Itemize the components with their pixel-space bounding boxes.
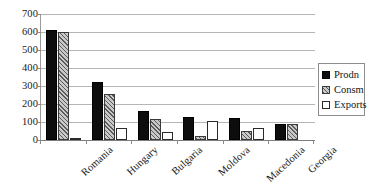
bar-group <box>87 14 133 140</box>
bar-prodn-moldova <box>183 117 194 140</box>
x-axis-tick-label-macedonia: Macedonia <box>264 144 307 184</box>
legend-label: Prodn <box>334 69 359 80</box>
bar-chart: 7006005004003002001000 RomaniaHungaryBul… <box>0 0 367 188</box>
y-axis-tick-label: 300 <box>4 81 38 91</box>
bar-consm-georgia <box>287 124 298 140</box>
bar-group <box>269 14 315 140</box>
bar-consm-romania <box>58 32 69 140</box>
bar-prodn-bulgaria <box>138 111 149 140</box>
bar-prodn-georgia <box>275 124 286 140</box>
legend-label: Exports <box>334 99 367 110</box>
x-axis-tick-label-moldova: Moldova <box>216 144 252 178</box>
plot-area <box>40 14 315 140</box>
legend: ProdnConsmExports <box>318 63 365 116</box>
bar-group <box>224 14 270 140</box>
legend-item-consm: Consm <box>322 82 361 97</box>
legend-item-prodn: Prodn <box>322 67 361 82</box>
y-axis-tick-label: 400 <box>4 63 38 73</box>
x-axis-tick-label-romania: Romania <box>79 144 115 178</box>
y-axis-tick-label: 500 <box>4 45 38 55</box>
bar-group <box>178 14 224 140</box>
y-axis-tick-label: 100 <box>4 117 38 127</box>
x-axis: RomaniaHungaryBulgariaMoldovaMacedoniaGe… <box>40 144 314 188</box>
bar-prodn-macedonia <box>229 118 240 140</box>
legend-swatch-prodn-icon <box>322 71 330 79</box>
legend-label: Consm <box>334 84 364 95</box>
legend-item-exports: Exports <box>322 97 361 112</box>
bar-prodn-hungary <box>92 82 103 140</box>
bar-exports-moldova <box>207 121 218 140</box>
bar-consm-bulgaria <box>150 119 161 140</box>
bar-prodn-romania <box>46 30 57 140</box>
bar-groups <box>41 14 315 140</box>
legend-swatch-exports-icon <box>322 101 330 109</box>
y-axis-tick-label: 0 <box>4 135 38 145</box>
y-axis-tick-label: 200 <box>4 99 38 109</box>
y-axis-tick-label: 700 <box>4 9 38 19</box>
x-axis-tick-label-bulgaria: Bulgaria <box>170 144 205 177</box>
bar-exports-macedonia <box>253 128 264 140</box>
bar-group <box>132 14 178 140</box>
bar-consm-macedonia <box>241 131 252 140</box>
legend-swatch-consm-icon <box>322 86 330 94</box>
bar-group <box>41 14 87 140</box>
x-axis-tick-label-georgia: Georgia <box>306 144 339 175</box>
bar-exports-bulgaria <box>162 132 173 140</box>
y-axis-tick-label: 600 <box>4 27 38 37</box>
x-axis-tick-label-hungary: Hungary <box>124 144 159 177</box>
bar-consm-hungary <box>104 94 115 140</box>
y-axis: 7006005004003002001000 <box>0 0 38 188</box>
bar-exports-hungary <box>116 128 127 140</box>
